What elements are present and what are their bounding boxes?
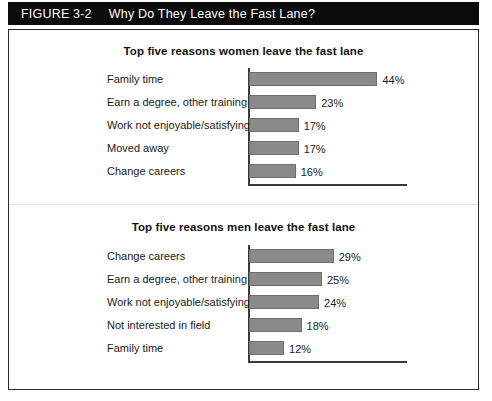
bar-value-label: 12%: [289, 343, 311, 355]
bar-value-label: 29%: [339, 251, 361, 263]
bar-row: Earn a degree, other training 23%: [9, 91, 478, 113]
bar-row: Work not enjoyable/satisfying 17%: [9, 114, 478, 136]
bar-track: 24%: [249, 295, 319, 309]
bar-track: 17%: [249, 141, 299, 155]
bar-category-label: Earn a degree, other training: [107, 96, 247, 108]
bar-row: Family time 44%: [9, 68, 478, 90]
bar-track: 44%: [249, 72, 377, 86]
bar-category-label: Family time: [107, 73, 163, 85]
bar-row: Earn a degree, other training 25%: [9, 268, 478, 290]
bar-category-label: Moved away: [107, 142, 169, 154]
bar-rect: [249, 118, 299, 132]
bar-track: 17%: [249, 118, 299, 132]
bar-value-label: 16%: [301, 166, 323, 178]
bar-value-label: 25%: [327, 274, 349, 286]
chart-men-title: Top five reasons men leave the fast lane: [9, 221, 478, 233]
bar-row: Change careers 16%: [9, 160, 478, 182]
figure-container: FIGURE 3-2 Why Do They Leave the Fast La…: [0, 0, 492, 401]
figure-number: FIGURE 3-2: [8, 7, 92, 21]
figure-header-bar: FIGURE 3-2 Why Do They Leave the Fast La…: [8, 2, 479, 25]
bar-category-label: Family time: [107, 342, 163, 354]
bar-row: Change careers 29%: [9, 245, 478, 267]
bar-value-label: 17%: [304, 143, 326, 155]
bar-rect: [249, 95, 316, 109]
bar-track: 23%: [249, 95, 316, 109]
bar-rect: [249, 141, 299, 155]
bar-value-label: 18%: [307, 320, 329, 332]
bar-row: Family time 12%: [9, 337, 478, 359]
bar-track: 16%: [249, 164, 296, 178]
bar-rect: [249, 72, 377, 86]
bar-track: 25%: [249, 272, 322, 286]
bar-track: 18%: [249, 318, 302, 332]
chart-women: Top five reasons women leave the fast la…: [9, 30, 478, 204]
bar-category-label: Earn a degree, other training: [107, 273, 247, 285]
bar-rect: [249, 272, 322, 286]
chart-women-title: Top five reasons women leave the fast la…: [9, 45, 478, 57]
bar-value-label: 24%: [324, 297, 346, 309]
chart-men-x-axis: [248, 361, 407, 363]
bar-row: Work not enjoyable/satisfying 24%: [9, 291, 478, 313]
bar-rect: [249, 164, 296, 178]
bar-rect: [249, 318, 302, 332]
bar-track: 12%: [249, 341, 284, 355]
bar-category-label: Not interested in field: [107, 319, 210, 331]
bar-value-label: 44%: [382, 74, 404, 86]
figure-title: Why Do They Leave the Fast Lane?: [92, 7, 315, 21]
figure-panel: Top five reasons women leave the fast la…: [8, 29, 479, 390]
bar-row: Not interested in field 18%: [9, 314, 478, 336]
bar-category-label: Change careers: [107, 250, 185, 262]
bar-rect: [249, 341, 284, 355]
bar-rect: [249, 295, 319, 309]
bar-row: Moved away 17%: [9, 137, 478, 159]
chart-women-x-axis: [248, 184, 407, 186]
bar-category-label: Work not enjoyable/satisfying: [107, 296, 250, 308]
bar-category-label: Change careers: [107, 165, 185, 177]
bar-value-label: 17%: [304, 120, 326, 132]
bar-track: 29%: [249, 249, 334, 263]
bar-category-label: Work not enjoyable/satisfying: [107, 119, 250, 131]
bar-value-label: 23%: [321, 97, 343, 109]
chart-men: Top five reasons men leave the fast lane…: [9, 205, 478, 390]
bar-rect: [249, 249, 334, 263]
